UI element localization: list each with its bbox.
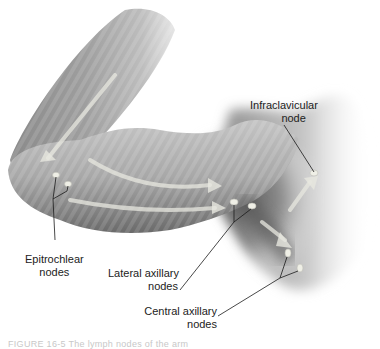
infraclavicular-label-line1: Infraclavicular [250,99,318,112]
figure-caption: FIGURE 16-5 The lymph nodes of the arm [8,339,188,349]
central-axillary-label: Central axillary nodes [137,305,217,331]
central-axillary-node-1 [285,249,291,257]
epitrochlear-label: Epitrochlear nodes [25,253,84,279]
epitrochlear-node-2 [65,181,72,187]
lateral-axillary-label: Lateral axillary nodes [108,267,178,293]
epitrochlear-label-line1: Epitrochlear [25,253,84,266]
lateral-axillary-node-1 [230,199,238,205]
central-axillary-label-line2: nodes [137,318,217,331]
epitrochlear-label-line2: nodes [25,266,84,279]
central-axillary-label-line1: Central axillary [137,305,217,318]
epitrochlear-node-1 [53,172,60,178]
lateral-axillary-label-line2: nodes [108,280,178,293]
infraclavicular-label-line2: node [250,112,318,125]
infraclavicular-node [310,170,318,176]
infraclavicular-label: Infraclavicular node [250,99,318,125]
lateral-axillary-label-line1: Lateral axillary [108,267,178,280]
lateral-axillary-node-2 [248,203,256,209]
